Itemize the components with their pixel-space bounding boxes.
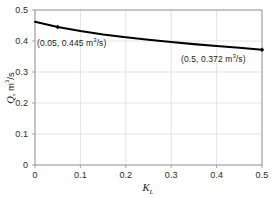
annotation-left-suffix: /s) [97,38,107,48]
x-tick-label: 0.4 [210,170,223,180]
annotation-right-prefix: (0.5, 0.372 m [181,54,232,64]
x-tick-label: 0.5 [256,170,269,180]
y-axis-title: Q, m3/s [4,72,15,104]
plot-background [35,10,262,165]
y-tick-label: 0.1 [0,129,28,139]
annotation-left-prefix: (0.05, 0.445 m [37,38,93,48]
x-tick-label: 0.2 [119,170,132,180]
x-axis-subscript: L [150,188,154,196]
x-axis-title: KL [143,182,154,196]
x-tick-label: 0 [32,170,37,180]
annotation-right-point: (0.5, 0.372 m3/s) [181,53,246,64]
x-axis-symbol: K [143,182,150,193]
plot-canvas [0,0,273,198]
x-tick-label: 0.3 [165,170,178,180]
x-tick-label: 0.1 [74,170,87,180]
annotation-right-suffix: /s) [236,54,246,64]
y-tick-label: 0.5 [0,5,28,15]
y-tick-label: 0 [0,160,28,170]
y-axis-unit-exponent: 3 [4,80,10,83]
chart-figure: 00.10.20.30.40.5 00.10.20.30.40.5 KL Q, … [0,0,273,198]
y-axis-unit-prefix: , m [5,83,16,96]
y-axis-symbol: Q [5,96,16,104]
y-tick-label: 0.4 [0,36,28,46]
y-axis-unit-suffix: /s [5,72,16,79]
annotation-left-point: (0.05, 0.445 m3/s) [37,37,106,48]
